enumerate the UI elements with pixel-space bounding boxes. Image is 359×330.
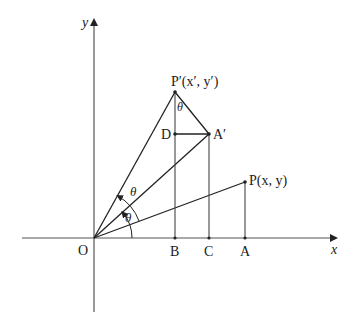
segment-OP [94, 182, 245, 238]
label-D: D [161, 127, 171, 142]
point-A [243, 236, 246, 239]
point-P-prime [173, 90, 177, 94]
theta-label-inner: θ [125, 210, 132, 225]
segment-OP-prime [94, 92, 175, 238]
label-B: B [170, 244, 179, 259]
rotation-diagram: y x O P′(x′, y′) A′ D P(x, y) B C A θ θ … [0, 0, 359, 330]
segment-OA-prime [94, 134, 209, 238]
theta-label-P-prime: θ [177, 100, 183, 114]
point-P [243, 180, 247, 184]
y-axis-label: y [80, 15, 89, 30]
origin-label: O [78, 243, 88, 258]
point-A-prime [207, 132, 211, 136]
label-A-prime: A′ [213, 127, 226, 142]
point-B [173, 236, 176, 239]
label-C: C [204, 244, 213, 259]
theta-label-outer: θ [130, 184, 137, 199]
point-D [173, 132, 177, 136]
label-P-prime: P′(x′, y′) [171, 74, 219, 90]
point-C [207, 236, 210, 239]
x-axis-label: x [330, 242, 338, 257]
label-A: A [240, 244, 251, 259]
label-P: P(x, y) [249, 173, 287, 189]
